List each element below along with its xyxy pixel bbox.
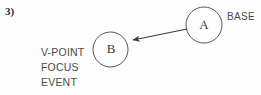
annotation-line-event: EVENT [41, 75, 84, 90]
diagram-canvas [0, 0, 261, 95]
edge-a-to-b-line [133, 29, 187, 40]
node-b-letter: B [101, 42, 121, 56]
node-b-annotation-block: V-POINT FOCUS EVENT [41, 45, 84, 90]
annotation-line-focus: FOCUS [41, 60, 84, 75]
annotation-line-v-point: V-POINT [41, 45, 84, 60]
item-number-label: 3) [5, 4, 14, 18]
figure-container: 3) A B BASE V-POINT FOCUS EVENT [0, 0, 261, 95]
base-label: BASE [227, 11, 255, 23]
node-a-letter: A [194, 18, 214, 32]
